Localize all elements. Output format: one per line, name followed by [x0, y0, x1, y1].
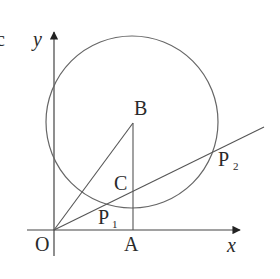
point-c-label: C — [114, 172, 127, 194]
svg-text:P: P — [98, 206, 109, 228]
point-o-label: O — [35, 233, 49, 255]
cropped-glyph: c — [0, 28, 5, 50]
point-p2-label: P 2 — [218, 148, 239, 172]
circle-b — [46, 36, 218, 208]
point-p1-label: P 1 — [98, 206, 118, 230]
line-op2 — [54, 127, 264, 230]
geometry-diagram: c y x O A B C P 1 P 2 — [0, 0, 280, 279]
point-a-label: A — [124, 233, 139, 255]
x-axis-label: x — [226, 234, 236, 256]
svg-text:2: 2 — [233, 160, 239, 172]
svg-text:P: P — [218, 148, 229, 170]
y-axis-label: y — [31, 28, 42, 51]
svg-text:1: 1 — [112, 218, 118, 230]
point-b-label: B — [134, 97, 147, 119]
